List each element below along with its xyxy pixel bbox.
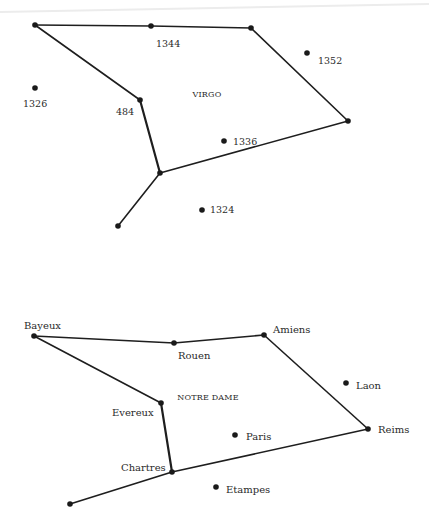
connector-line: [151, 26, 251, 28]
connector-line: [160, 121, 348, 173]
connector-line: [118, 173, 160, 226]
484-point-marker: [137, 97, 143, 103]
laon-point-marker: [343, 380, 349, 386]
point-label: 1336: [233, 136, 257, 147]
point-label: 1324: [210, 204, 234, 215]
point-marker: [157, 170, 163, 176]
point-marker: [32, 22, 38, 28]
connector-line: [264, 335, 368, 429]
chartres-point-marker: [169, 469, 175, 475]
connector-line: [174, 335, 264, 343]
point-label: Etampes: [226, 484, 270, 495]
point-label: Chartres: [121, 462, 166, 473]
reims-point-marker: [365, 426, 371, 432]
scan-artifact-line: [0, 4, 429, 12]
point-label: Laon: [356, 380, 382, 391]
1324-point-marker: [199, 207, 205, 213]
point-label: Paris: [246, 431, 271, 442]
diagram-title: NOTRE DAME: [177, 393, 239, 402]
connector-line: [35, 25, 140, 100]
1344-point-marker: [148, 23, 154, 29]
point-marker: [67, 501, 73, 507]
point-label: Reims: [378, 424, 409, 435]
etampes-point-marker: [213, 484, 219, 490]
paris-point-marker: [232, 432, 238, 438]
evereux-point-marker: [158, 400, 164, 406]
rouen-point-marker: [171, 340, 177, 346]
amiens-point-marker: [261, 332, 267, 338]
point-marker: [248, 25, 254, 31]
diagram-title: VIRGO: [192, 90, 222, 99]
1326-point-marker: [32, 85, 38, 91]
connector-line: [70, 472, 172, 504]
bayeux-point-marker: [31, 333, 37, 339]
point-label: 1344: [156, 38, 180, 49]
virgo-constellation-diagram: 13444841326135213361324VIRGO: [23, 22, 351, 229]
connector-line: [34, 336, 161, 403]
notre-dame-cathedral-map-diagram: BayeuxRouenAmiensReimsEvereuxChartresLao…: [24, 320, 409, 507]
point-label: Bayeux: [24, 320, 61, 331]
connector-line: [35, 25, 151, 26]
1352-point-marker: [304, 50, 310, 56]
connector-line: [251, 28, 348, 121]
connector-line: [34, 336, 174, 343]
point-label: 1326: [23, 98, 47, 109]
point-label: Rouen: [178, 350, 211, 361]
point-label: Evereux: [112, 407, 154, 418]
1336-point-marker: [221, 138, 227, 144]
point-label: 484: [116, 106, 134, 117]
connector-line: [140, 100, 160, 173]
constellation-comparison-diagram: 13444841326135213361324VIRGO BayeuxRouen…: [0, 0, 429, 529]
point-label: Amiens: [272, 324, 310, 335]
point-label: 1352: [318, 55, 342, 66]
point-marker: [345, 118, 351, 124]
point-marker: [115, 223, 121, 229]
